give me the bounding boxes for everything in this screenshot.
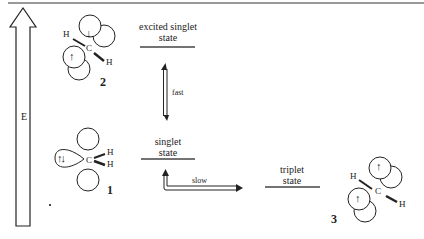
energy-axis-label: E <box>19 111 29 122</box>
singlet-label-line1: singlet <box>140 136 196 147</box>
m3-carbon: C <box>375 186 381 197</box>
stray-dot <box>49 204 51 206</box>
excited-singlet-label-line2: state <box>128 32 208 43</box>
m1-carbon: C <box>86 155 92 166</box>
molecule-3-number: 3 <box>331 212 337 227</box>
m3-bottom-electron: ↑ <box>355 193 361 204</box>
singlet-label: singlet state <box>140 136 196 158</box>
fast-transition-arrow <box>161 63 169 121</box>
m3-hydrogen-1: H <box>350 171 357 182</box>
m1-electron-pair: ↑↓ <box>57 153 64 164</box>
m2-carbon: C <box>86 43 92 54</box>
molecule-1-number: 1 <box>107 183 113 198</box>
m2-hydrogen-2: H <box>106 57 113 68</box>
excited-singlet-label-line1: excited singlet <box>128 21 208 32</box>
excited-singlet-label: excited singlet state <box>128 21 208 43</box>
m3-hydrogen-2: H <box>399 199 406 210</box>
triplet-label-line2: state <box>264 175 320 186</box>
m2-bottom-electron: ↑ <box>69 51 75 62</box>
m1-hydrogen-2: H <box>107 159 114 170</box>
m1-hydrogen-1: H <box>107 147 114 158</box>
slow-label: slow <box>192 175 207 186</box>
m3-top-electron: ↑ <box>376 161 382 172</box>
m2-top-electron: ↓ <box>86 28 92 39</box>
molecule-2-number: 2 <box>100 75 106 90</box>
fast-label: fast <box>172 87 184 98</box>
triplet-label-line1: triplet <box>264 164 320 175</box>
m2-hydrogen-1: H <box>63 29 70 40</box>
triplet-label: triplet state <box>264 164 320 186</box>
singlet-label-line2: state <box>140 147 196 158</box>
